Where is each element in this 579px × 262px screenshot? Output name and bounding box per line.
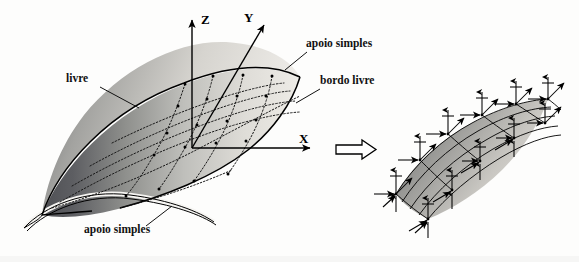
axis-z-label: Z — [201, 12, 210, 27]
label-free-edge-left: livre — [66, 72, 88, 84]
label-free-edge-right: bordo livre — [320, 74, 374, 86]
axis-x-label: X — [299, 131, 309, 146]
figure-canvas: Z Y X livre apoio simples bordo livre ap… — [0, 0, 579, 262]
scan-noise — [0, 256, 579, 262]
label-simple-support-top: apoio simples — [306, 37, 373, 50]
label-simple-support-bottom: apoio simples — [84, 223, 151, 236]
shell-boundary-condition-diagram: Z Y X livre apoio simples bordo livre ap… — [0, 0, 579, 262]
axis-y-label: Y — [244, 10, 254, 25]
